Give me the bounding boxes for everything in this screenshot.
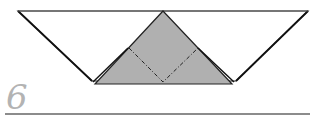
origami-diagram: 6	[0, 0, 322, 119]
fold-illustration	[0, 0, 322, 119]
divider-rule	[5, 113, 310, 115]
step-number: 6	[6, 80, 28, 114]
